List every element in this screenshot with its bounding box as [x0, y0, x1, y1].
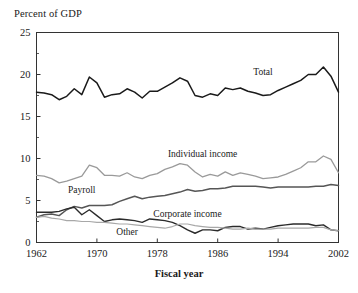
x-tick-label: 1970 [86, 248, 107, 259]
y-tick-label: 10 [20, 153, 31, 164]
x-tick-label: 1994 [268, 248, 290, 259]
series-annotations: TotalIndividual incomePayrollCorporate i… [68, 67, 273, 237]
series-label-total: Total [253, 67, 273, 77]
y-tick-label: 20 [20, 69, 31, 80]
x-axis-ticks: 196219701978198619942002 [26, 239, 349, 259]
y-tick-label: 25 [20, 27, 31, 38]
series-label-payroll: Payroll [68, 185, 96, 195]
x-axis-title: Fiscal year [0, 268, 358, 279]
line-chart-plot: 0510152025 196219701978198619942002 Tota… [0, 0, 358, 293]
series-line-individual-income [37, 156, 339, 183]
y-axis-ticks: 0510152025 [20, 27, 41, 248]
series-line-total [37, 67, 339, 100]
y-tick-label: 15 [20, 111, 31, 122]
x-tick-label: 1978 [147, 248, 168, 259]
series-label-corporate-income: Corporate income [153, 209, 221, 219]
y-tick-label: 0 [25, 237, 30, 248]
x-tick-label: 2002 [328, 248, 349, 259]
y-tick-label: 5 [25, 195, 30, 206]
x-tick-label: 1962 [26, 248, 47, 259]
chart-figure: Percent of GDP 0510152025 19621970197819… [0, 0, 358, 293]
series-label-other: Other [116, 227, 138, 237]
series-label-individual-income: Individual income [168, 149, 237, 159]
x-tick-label: 1986 [207, 248, 228, 259]
